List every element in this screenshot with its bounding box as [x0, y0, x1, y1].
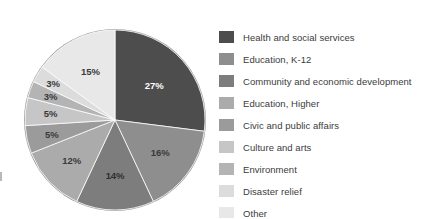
- legend-color-swatch: [219, 207, 234, 218]
- legend-item[interactable]: Culture and arts: [219, 136, 439, 158]
- legend-color-swatch: [219, 97, 234, 109]
- pie-slice-value-label: 27%: [145, 80, 164, 91]
- legend-item-label: Disaster relief: [243, 186, 302, 197]
- legend-item-label: Education, Higher: [243, 98, 319, 109]
- pie-slice-value-label: 3%: [44, 91, 58, 102]
- legend-color-swatch: [219, 185, 234, 197]
- legend-color-swatch: [219, 119, 234, 131]
- pie-slice-value-label: 14%: [106, 170, 125, 181]
- legend-color-swatch: [219, 31, 234, 43]
- legend-item-label: Community and economic development: [243, 76, 412, 87]
- legend-color-swatch: [219, 53, 234, 65]
- pie-slice-value-label: 3%: [46, 78, 60, 89]
- legend-item[interactable]: Disaster relief: [219, 180, 439, 202]
- pie-slice-value-label: 16%: [151, 147, 170, 158]
- page-margin-mark: [0, 172, 2, 181]
- legend-color-swatch: [219, 141, 234, 153]
- pie-slices: [25, 30, 205, 210]
- legend-item-label: Health and social services: [243, 32, 355, 43]
- legend-item[interactable]: Education, Higher: [219, 92, 439, 114]
- legend-color-swatch: [219, 163, 234, 175]
- pie-slice-value-label: 5%: [44, 108, 58, 119]
- legend-item[interactable]: Education, K-12: [219, 48, 439, 70]
- legend-item-label: Education, K-12: [243, 54, 311, 65]
- legend-color-swatch: [219, 75, 234, 87]
- pie-chart-figure: 27%16%14%12%5%5%3%3%15% Health and socia…: [0, 0, 440, 218]
- pie-chart: 27%16%14%12%5%5%3%3%15%: [23, 28, 207, 212]
- legend-item-label: Culture and arts: [243, 142, 311, 153]
- legend-item-label: Other: [243, 208, 267, 219]
- legend-item[interactable]: Environment: [219, 158, 439, 180]
- pie-slice-value-label: 5%: [45, 129, 59, 140]
- legend-item[interactable]: Civic and public affairs: [219, 114, 439, 136]
- legend-item-label: Civic and public affairs: [243, 120, 339, 131]
- legend-item[interactable]: Health and social services: [219, 26, 439, 48]
- pie-slice-value-label: 15%: [81, 66, 100, 77]
- legend-item-label: Environment: [243, 164, 297, 175]
- legend-item[interactable]: Community and economic development: [219, 70, 439, 92]
- pie-slice-value-label: 12%: [62, 155, 81, 166]
- chart-legend: Health and social servicesEducation, K-1…: [219, 26, 439, 218]
- legend-item[interactable]: Other: [219, 202, 439, 218]
- pie-chart-svg: 27%16%14%12%5%5%3%3%15%: [23, 28, 207, 212]
